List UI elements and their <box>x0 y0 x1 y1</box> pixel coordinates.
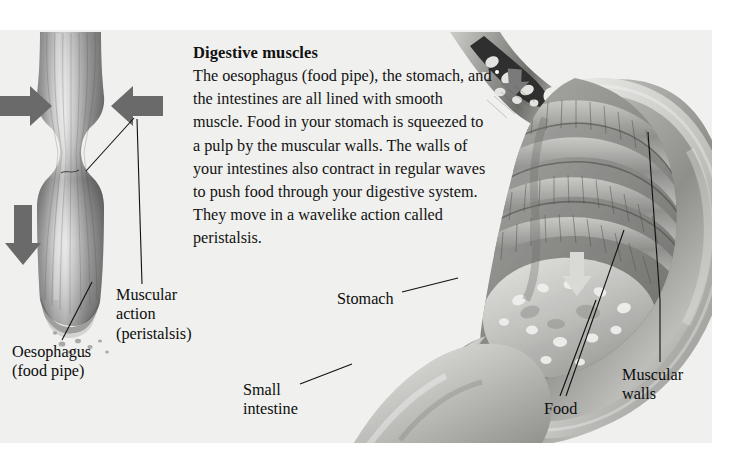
label-stomach: Stomach <box>337 290 394 309</box>
figure-page: Digestive muscles The oesophagus (food p… <box>0 0 734 470</box>
article-text-block: Digestive muscles The oesophagus (food p… <box>193 42 493 251</box>
label-muscular-walls: Muscular walls <box>622 366 683 405</box>
article-body: The oesophagus (food pipe), the stomach,… <box>193 65 493 251</box>
label-oesophagus: Oesophagus (food pipe) <box>12 343 91 382</box>
page-title: Digestive muscles <box>193 42 493 64</box>
label-food: Food <box>544 400 577 419</box>
label-small-intestine: Small intestine <box>243 381 298 420</box>
label-muscular-action: Muscular action (peristalsis) <box>116 286 192 344</box>
